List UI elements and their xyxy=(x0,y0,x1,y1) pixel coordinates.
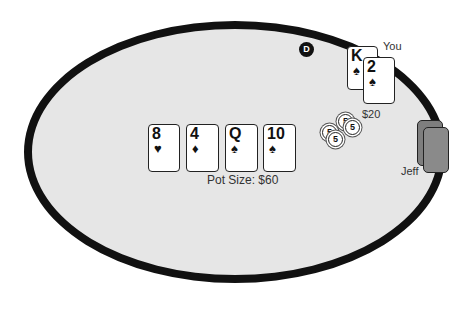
bet-amount-you: $20 xyxy=(362,108,380,120)
dealer-button: D xyxy=(299,42,314,57)
pot-size: Pot Size: $60 xyxy=(207,173,278,187)
spade-icon: ♠ xyxy=(353,64,360,77)
community-card-4: 10 ♠ xyxy=(263,124,296,172)
player-name-you: You xyxy=(383,40,402,52)
chip: 5 xyxy=(345,120,360,135)
community-card-3: Q ♠ xyxy=(225,124,258,172)
hole-card-2[interactable]: 2 ♠ xyxy=(363,57,395,104)
spade-icon: ♠ xyxy=(231,142,238,155)
community-card-1: 8 ♥ xyxy=(148,124,180,172)
spade-icon: ♠ xyxy=(369,75,376,88)
card-back-2 xyxy=(423,127,449,173)
spade-icon: ♠ xyxy=(269,142,276,155)
heart-icon: ♥ xyxy=(154,142,162,155)
community-card-2: 4 ♦ xyxy=(186,124,219,172)
chip: 5 xyxy=(328,132,343,147)
player-name-jeff: Jeff xyxy=(401,165,419,177)
diamond-icon: ♦ xyxy=(192,142,199,155)
